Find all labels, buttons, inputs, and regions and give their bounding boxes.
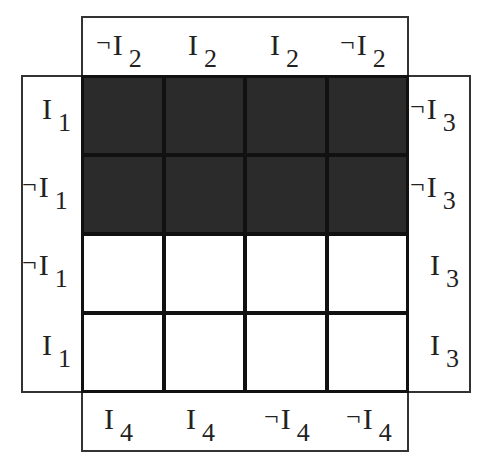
left-label-3: ¬I1: [22, 250, 68, 280]
bottom-label-4: ¬I4: [346, 404, 392, 434]
left-label-1: I1: [42, 94, 71, 124]
left-label-2: ¬I1: [22, 172, 68, 202]
grid-cell-r2-c4: [329, 157, 407, 232]
grid-cell-r3-c3: [247, 236, 325, 311]
grid-cell-r3-c1: [84, 236, 162, 311]
grid-cell-r4-c2: [166, 315, 244, 390]
grid-cell-r2-c2: [166, 157, 244, 232]
grid-cell-r1-c2: [166, 78, 244, 153]
grid-cell-r1-c1: [84, 78, 162, 153]
top-label-3: I2: [270, 30, 299, 60]
top-label-4: ¬I2: [340, 30, 386, 60]
grid-cell-r4-c3: [247, 315, 325, 390]
bottom-label-2: I4: [186, 404, 215, 434]
grid-cell-r4-c1: [84, 315, 162, 390]
grid-cell-r3-c4: [329, 236, 407, 311]
right-label-2: ¬I3: [410, 172, 456, 202]
grid-cell-r1-c4: [329, 78, 407, 153]
bottom-label-3: ¬I4: [264, 404, 310, 434]
grid-cell-r1-c3: [247, 78, 325, 153]
top-label-2: I2: [188, 30, 217, 60]
grid-cell-r2-c3: [247, 157, 325, 232]
left-label-4: I1: [42, 330, 71, 360]
bottom-label-1: I4: [104, 404, 133, 434]
right-label-4: I3: [430, 330, 459, 360]
grid-cell-r3-c2: [166, 236, 244, 311]
top-label-1: ¬I2: [96, 30, 142, 60]
right-label-1: ¬I3: [410, 94, 456, 124]
right-label-3: I3: [430, 250, 459, 280]
grid-cell-r2-c1: [84, 157, 162, 232]
grid-cell-r4-c4: [329, 315, 407, 390]
karnaugh-grid: [81, 75, 409, 393]
